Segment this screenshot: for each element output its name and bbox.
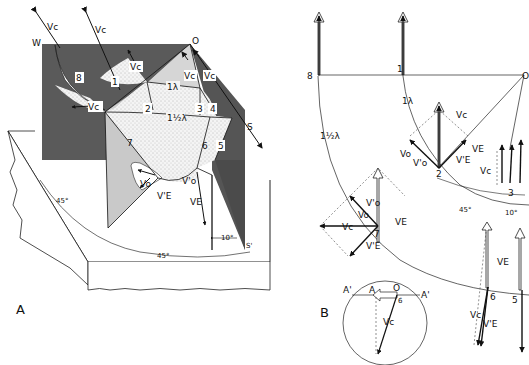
label-vc-3: Vc [130, 62, 141, 72]
ray-label-2: 2 [145, 104, 151, 114]
panel-b-label: B [320, 305, 329, 320]
b-ray-6: 6 [490, 292, 496, 302]
label-ve: VE [190, 197, 202, 207]
b-label-vc-7: Vc [342, 222, 353, 232]
b-label-vc-2: Vc [456, 110, 467, 120]
inset-a: A [369, 285, 376, 295]
panel-a-label: A [16, 302, 25, 317]
b-ray-3: 3 [508, 188, 514, 198]
b-label-ve-prime-6: V'E [483, 319, 498, 329]
angle-10: 10° [221, 234, 233, 242]
angle-45-bottom: 45° [157, 252, 169, 260]
b-wavefront-1-5: 1½λ [320, 131, 340, 141]
b-ray-1: 1 [397, 64, 403, 74]
b-label-vo-2: Vo [400, 149, 411, 159]
ray-label-8: 8 [76, 73, 82, 83]
b-label-vo-prime-2: V'o [413, 158, 428, 168]
diagram-canvas: W O S S' Vc Vc Vc Vc Vc Vc 8 1 2 3 4 5 6… [0, 0, 529, 365]
inset-6: 6 [398, 297, 403, 305]
b-label-vc-3: Vc [480, 166, 491, 176]
b-label-ve-2: VE [472, 144, 484, 154]
inset-a-prime-right: A' [421, 290, 430, 300]
inset-vc: Vc [383, 317, 394, 327]
b-ray-7: 7 [374, 229, 380, 239]
b-label-o: O [522, 71, 529, 81]
b-label-ve-7: VE [395, 217, 407, 227]
hollow-arrows [314, 12, 525, 290]
angle-45-left: 45° [56, 197, 68, 205]
label-vc-4: Vc [184, 71, 195, 81]
label-vo: Vo [140, 179, 151, 189]
b-label-vc-6: Vc [470, 310, 481, 320]
b-label-ve-prime-7: V'E [366, 241, 381, 251]
label-vc-5: Vc [204, 71, 215, 81]
panel-b: 8 1 2 3 5 6 7 O 1λ 1½λ Vc Vo V'o VE V'E … [307, 12, 529, 365]
ray-label-3: 3 [197, 104, 203, 114]
ray-label-7: 7 [127, 138, 133, 148]
label-o: O [192, 36, 199, 46]
ray-label-4: 4 [210, 104, 216, 114]
b-ray-2: 2 [436, 169, 442, 179]
b-label-vo-prime-7: V'o [366, 198, 381, 208]
panel-a: W O S S' Vc Vc Vc Vc Vc Vc 8 1 2 3 4 5 6… [8, 12, 270, 317]
ray-label-6: 6 [202, 141, 208, 151]
label-ve-prime: V'E [157, 191, 172, 201]
wavefront-1-lambda: 1λ [167, 82, 179, 92]
b-ray-8: 8 [307, 71, 313, 81]
figure: W O S S' Vc Vc Vc Vc Vc Vc 8 1 2 3 4 5 6… [0, 0, 529, 365]
ray-label-5: 5 [218, 141, 224, 151]
label-vc-6: Vc [88, 102, 99, 112]
b-label-ve-prime-2: V'E [456, 155, 471, 165]
b-label-vo-7: Vo [358, 210, 369, 220]
label-vc-1: Vc [47, 22, 58, 32]
inset-o: O [393, 283, 400, 293]
ray-label-1: 1 [112, 77, 118, 87]
b-angle-10: 10° [505, 209, 517, 217]
label-s-prime: S' [246, 242, 252, 250]
b-angle-45: 45° [459, 206, 471, 214]
label-s: S [247, 122, 253, 132]
b-ray-5: 5 [512, 295, 518, 305]
label-vc-2: Vc [95, 25, 106, 35]
b-wavefront-1: 1λ [402, 96, 414, 106]
wavefront-1-5-lambda: 1½λ [167, 113, 187, 123]
label-vo-prime: V'o [182, 176, 197, 186]
inset-a-prime-left: A' [343, 285, 352, 295]
b-label-ve-6: VE [497, 257, 509, 267]
label-w: W [32, 38, 41, 48]
